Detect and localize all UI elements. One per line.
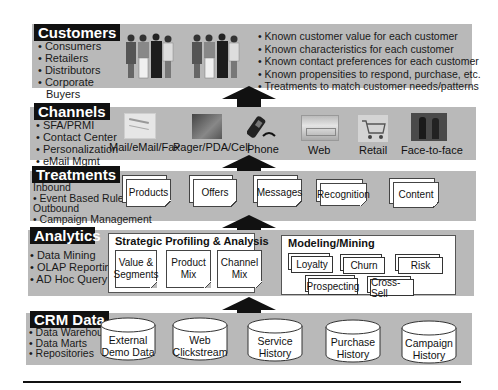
profiling-value-segments: Value &Segments bbox=[115, 250, 157, 288]
web-icon bbox=[301, 115, 339, 141]
modeling-mining-title: Modeling/Mining bbox=[288, 237, 375, 249]
model-churn: Churn bbox=[343, 257, 385, 274]
profiling-product-mix: ProductMix bbox=[166, 250, 211, 288]
pager-icon bbox=[192, 114, 222, 139]
analytics-list: • Data Mining • OLAP Reporting • AD Hoc … bbox=[30, 249, 117, 285]
treatment-content: Content bbox=[393, 182, 439, 208]
strategic-profiling-title: Strategic Profiling & Analysis bbox=[115, 235, 269, 247]
mail-icon bbox=[124, 113, 156, 139]
datastore-purchase-history: PurchaseHistory bbox=[325, 319, 381, 363]
channel-web: Web bbox=[308, 144, 330, 156]
customers-label: Customers bbox=[34, 24, 120, 41]
model-risk: Risk bbox=[398, 257, 443, 274]
channels-label: Channels bbox=[34, 103, 110, 120]
model-cross-sell: Cross-Sell bbox=[370, 279, 414, 296]
channel-retail: Retail bbox=[359, 144, 387, 156]
channel-mail: Mail/eMail/Fax bbox=[109, 141, 180, 153]
datastore-service-history: ServiceHistory bbox=[247, 318, 303, 362]
analytics-label: Analytics bbox=[30, 227, 95, 244]
datastore-external-demo: ExternalDemo Data bbox=[100, 317, 156, 361]
bottom-rule bbox=[23, 381, 461, 383]
customer-outcomes-list: • Known customer value for each customer… bbox=[258, 30, 481, 93]
treatment-messages: Messages bbox=[257, 179, 302, 207]
treatment-products: Products bbox=[126, 179, 171, 207]
datastore-campaign-history: CampaignHistory bbox=[401, 320, 457, 364]
treatment-recognition: Recognition bbox=[320, 183, 367, 206]
shopping-cart-icon bbox=[358, 115, 388, 142]
handshake-icon bbox=[411, 113, 447, 141]
profiling-channel-mix: ChannelMix bbox=[217, 250, 262, 288]
channel-pager: Pager/PDA/Cell bbox=[173, 141, 250, 153]
customers-list: • Consumers • Retailers • Distributors •… bbox=[38, 40, 101, 100]
channel-phone: Phone bbox=[247, 143, 279, 155]
model-loyalty: Loyalty bbox=[291, 256, 333, 273]
treatment-offers: Offers bbox=[193, 179, 237, 207]
channels-list: • SFA/PRMI • Contact Center • Personaliz… bbox=[36, 119, 118, 167]
model-prospecting: Prospecting bbox=[308, 278, 358, 295]
channel-face-to-face: Face-to-face bbox=[401, 144, 463, 156]
phone-icon bbox=[247, 114, 277, 139]
people-group-icon bbox=[123, 32, 253, 84]
datastore-web-clickstream: WebClickstream bbox=[172, 317, 228, 361]
